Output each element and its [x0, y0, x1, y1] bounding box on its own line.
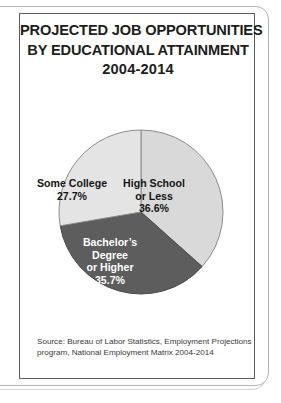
pie-label-sc-line1: Some College: [37, 177, 107, 189]
chart-frame: PROJECTED JOB OPPORTUNITIES BY EDUCATION…: [19, 13, 255, 379]
pie-chart: High School or Less 36.6% Some College 2…: [20, 14, 256, 380]
pie-label-ba-line2: Degree: [92, 249, 128, 261]
pie-label-high-school-or-less: High School or Less 36.6%: [116, 177, 192, 215]
pie-label-ba-line1: Bachelor’s: [83, 236, 137, 248]
pie-label-ba-line3: or Higher: [86, 261, 133, 273]
source-note: Source: Bureau of Labor Statistics, Empl…: [37, 336, 249, 359]
pie-label-bachelors-degree-or-higher: Bachelor’s Degree or Higher 35.7%: [68, 236, 152, 286]
source-line-2: program, National Employment Matrix 2004…: [37, 347, 249, 358]
pie-value-bachelors-degree-or-higher: 35.7%: [68, 274, 152, 287]
pie-label-hs-line1: High School: [123, 177, 185, 189]
page-root: PROJECTED JOB OPPORTUNITIES BY EDUCATION…: [0, 0, 281, 403]
pie-value-some-college: 27.7%: [30, 190, 114, 203]
source-line-1: Source: Bureau of Labor Statistics, Empl…: [37, 336, 249, 347]
pie-label-hs-line2: or Less: [135, 190, 173, 202]
pie-value-high-school-or-less: 36.6%: [116, 202, 192, 215]
pie-label-some-college: Some College 27.7%: [30, 177, 114, 202]
